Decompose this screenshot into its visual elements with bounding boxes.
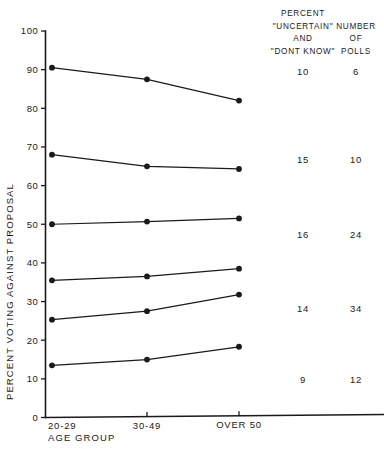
data-point (49, 221, 55, 227)
polls-value: 24 (350, 229, 362, 240)
uncertain-header-line: AND (293, 34, 312, 43)
y-tick-label: 50 (27, 219, 39, 230)
chart-container: 0102030405060708090100 20-2930-49OVER 50… (0, 0, 384, 449)
data-point (236, 216, 242, 222)
polls-header-line: OF (350, 34, 363, 43)
polls-value: 34 (350, 303, 362, 314)
line-chart: 0102030405060708090100 20-2930-49OVER 50… (0, 0, 384, 449)
y-tick-label: 80 (27, 103, 39, 114)
polls-header-line: NUMBER (336, 22, 376, 31)
y-tick-label: 60 (27, 180, 39, 191)
data-point (236, 344, 242, 350)
data-point (49, 317, 55, 323)
data-point (144, 219, 150, 225)
uncertain-value: 15 (297, 154, 309, 165)
x-tick-label: OVER 50 (216, 419, 262, 430)
y-tick-label: 40 (27, 257, 39, 268)
data-point (144, 163, 150, 169)
y-tick-label: 0 (33, 412, 39, 423)
data-point (236, 98, 242, 104)
polls-value: 12 (350, 374, 362, 385)
polls-value: 10 (350, 154, 362, 165)
uncertain-value: 10 (297, 66, 309, 77)
x-axis-title: AGE GROUP (48, 432, 115, 443)
data-point (49, 362, 55, 368)
uncertain-header-line: "UNCERTAIN" (273, 22, 334, 31)
x-tick-label: 30-49 (133, 420, 161, 431)
y-tick-label: 20 (27, 335, 39, 346)
y-tick-label: 90 (27, 64, 39, 75)
uncertain-header-line: PERCENT (281, 9, 325, 18)
data-point (236, 292, 242, 298)
data-point (144, 274, 150, 280)
uncertain-value: 16 (297, 229, 309, 240)
y-tick-label: 70 (27, 141, 39, 152)
uncertain-header-line: "DONT KNOW" (271, 47, 335, 56)
y-tick-label: 100 (21, 25, 39, 36)
y-tick-label: 30 (27, 296, 39, 307)
data-point (144, 76, 150, 82)
data-point (49, 152, 55, 158)
uncertain-value: 9 (300, 374, 306, 385)
y-axis-title: PERCENT VOTING AGAINST PROPOSAL (4, 183, 15, 400)
data-point (49, 65, 55, 71)
data-point (49, 277, 55, 283)
y-tick-label: 10 (27, 373, 39, 384)
data-point (236, 266, 242, 272)
polls-value: 6 (353, 66, 359, 77)
x-tick-label: 20-29 (48, 420, 76, 431)
data-point (236, 166, 242, 172)
data-point (144, 308, 150, 314)
data-point (144, 357, 150, 363)
uncertain-value: 14 (297, 303, 309, 314)
polls-header-line: POLLS (341, 47, 371, 56)
